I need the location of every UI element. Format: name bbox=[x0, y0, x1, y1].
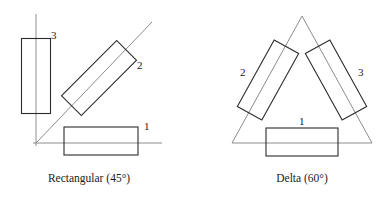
coil-label-3: 3 bbox=[51, 29, 57, 41]
winding-configurations-figure: 123Rectangular (45°)123Delta (60°) bbox=[0, 0, 391, 207]
coil-rect-3[interactable] bbox=[305, 40, 366, 120]
panel-rectangular: 123Rectangular (45°) bbox=[22, 14, 163, 185]
coil-label-2: 2 bbox=[240, 66, 246, 78]
coil-rect-2[interactable] bbox=[237, 40, 298, 120]
panel-caption-rectangular: Rectangular (45°) bbox=[48, 172, 130, 185]
axis-triangle-side-left bbox=[232, 16, 302, 143]
coil-label-2: 2 bbox=[137, 59, 143, 71]
diagram-canvas: 123Rectangular (45°)123Delta (60°) bbox=[0, 0, 391, 207]
panel-delta: 123Delta (60°) bbox=[232, 16, 372, 185]
axis-triangle-side-right bbox=[302, 16, 372, 143]
coil-label-1: 1 bbox=[144, 120, 150, 132]
panels-layer: 123Rectangular (45°)123Delta (60°) bbox=[22, 14, 373, 185]
panel-caption-delta: Delta (60°) bbox=[276, 172, 328, 185]
coil-rect-1[interactable] bbox=[64, 127, 138, 155]
coil-rect-1[interactable] bbox=[266, 128, 338, 156]
coil-label-1: 1 bbox=[299, 115, 305, 127]
coil-label-3: 3 bbox=[358, 66, 364, 78]
